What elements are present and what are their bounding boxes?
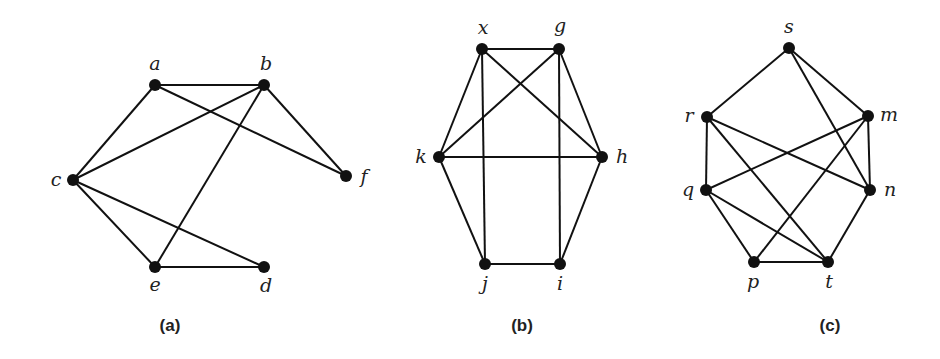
- vertex-label-k: k: [415, 145, 427, 167]
- vertex-c: [67, 174, 79, 186]
- vertex-t: [822, 256, 834, 268]
- edge-k-j: [439, 157, 485, 264]
- vertex-b: [258, 79, 270, 91]
- vertex-label-h: h: [616, 145, 628, 167]
- vertex-d: [258, 261, 270, 273]
- vertex-label-r: r: [684, 104, 695, 126]
- vertex-x: [476, 43, 488, 55]
- caption-b: (b): [511, 316, 533, 335]
- vertex-label-d: d: [260, 274, 272, 296]
- vertex-label-p: p: [747, 270, 759, 292]
- vertex-label-c: c: [51, 168, 62, 190]
- graph-figure: abcfed(a) xgkhji(b) srmqnpt(c): [0, 0, 940, 359]
- edge-n-t: [828, 190, 870, 262]
- edge-m-n: [868, 116, 870, 190]
- edge-c-e: [73, 180, 155, 267]
- vertex-label-a: a: [149, 52, 160, 74]
- vertex-label-e: e: [149, 273, 160, 295]
- vertex-h: [596, 151, 608, 163]
- vertex-n: [864, 184, 876, 196]
- vertex-label-b: b: [260, 52, 272, 74]
- edge-s-r: [707, 48, 789, 117]
- edge-b-f: [264, 85, 346, 176]
- caption-a: (a): [160, 316, 181, 335]
- vertex-q: [700, 184, 712, 196]
- edge-r-q: [706, 117, 707, 190]
- vertex-i: [554, 258, 566, 270]
- vertex-g: [553, 43, 565, 55]
- graph-a: abcfed(a): [51, 52, 371, 335]
- vertex-label-f: f: [358, 165, 370, 187]
- edge-h-i: [560, 157, 602, 264]
- edge-x-k: [439, 49, 482, 157]
- graph-b: xgkhji(b): [415, 14, 628, 335]
- vertex-label-j: j: [478, 272, 488, 294]
- vertex-s: [783, 42, 795, 54]
- vertex-j: [479, 258, 491, 270]
- edge-s-m: [789, 48, 868, 116]
- vertex-a: [149, 79, 161, 91]
- vertex-p: [748, 256, 760, 268]
- vertex-label-g: g: [554, 14, 566, 36]
- edge-a-c: [73, 85, 155, 180]
- edge-g-h: [559, 49, 602, 157]
- vertex-f: [340, 170, 352, 182]
- edge-a-f: [155, 85, 346, 176]
- vertex-e: [149, 261, 161, 273]
- vertex-label-s: s: [784, 15, 794, 37]
- vertex-label-i: i: [557, 272, 563, 294]
- vertex-r: [701, 111, 713, 123]
- edge-q-p: [706, 190, 754, 262]
- vertex-label-t: t: [825, 270, 833, 292]
- vertex-label-q: q: [682, 178, 694, 200]
- vertex-label-m: m: [880, 103, 898, 125]
- vertex-m: [862, 110, 874, 122]
- edge-s-n: [789, 48, 870, 190]
- edge-c-d: [73, 180, 264, 267]
- vertex-k: [433, 151, 445, 163]
- graph-c: srmqnpt(c): [682, 15, 898, 335]
- caption-c: (c): [820, 316, 841, 335]
- vertex-label-x: x: [478, 16, 489, 38]
- vertex-label-n: n: [884, 178, 896, 200]
- edge-q-t: [706, 190, 828, 262]
